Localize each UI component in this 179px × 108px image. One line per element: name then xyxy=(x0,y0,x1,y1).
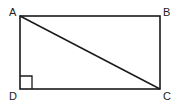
vertex-label-d: D xyxy=(9,90,17,102)
vertex-label-c: C xyxy=(163,90,171,102)
vertex-label-b: B xyxy=(163,6,170,18)
vertex-label-a: A xyxy=(9,6,17,18)
right-angle-marker xyxy=(20,76,32,89)
rectangle-diagram: A B C D xyxy=(0,0,179,108)
diagonal-ac xyxy=(20,16,160,89)
